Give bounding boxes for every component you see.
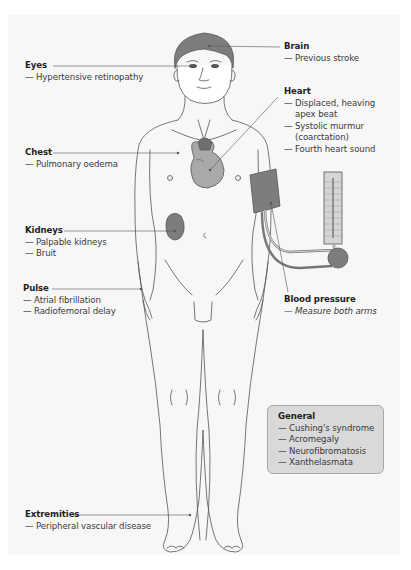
label-heart-item: (coarctation) — [284, 132, 375, 144]
label-heart-item: —Fourth heart sound — [284, 144, 375, 156]
label-heart: Heart —Displaced, heaving apex beat —Sys… — [284, 86, 375, 156]
heart-icon — [191, 138, 224, 188]
label-heart-title: Heart — [284, 86, 375, 98]
label-heart-item: —Systolic murmur — [284, 121, 375, 133]
label-blood-pressure: Blood pressure —Measure both arms — [284, 294, 377, 317]
label-heart-item: —Displaced, heaving — [284, 98, 375, 110]
label-extremities-title: Extremities — [25, 509, 151, 521]
label-heart-item: apex beat — [284, 109, 375, 121]
label-eyes-item: —Hypertensive retinopathy — [25, 72, 143, 84]
kidney-icon — [166, 213, 184, 240]
label-brain-title: Brain — [284, 41, 359, 53]
label-general-item: —Neurofibromatosis — [278, 446, 374, 458]
label-general-item: —Cushing's syndrome — [278, 423, 374, 435]
label-blood-pressure-item: —Measure both arms — [284, 306, 377, 318]
label-pulse: Pulse —Atrial fibrillation —Radiofemoral… — [23, 283, 116, 318]
label-pulse-title: Pulse — [23, 283, 116, 295]
general-box: General —Cushing's syndrome —Acromegaly … — [267, 405, 384, 474]
label-eyes-title: Eyes — [25, 60, 143, 72]
label-brain-item: —Previous stroke — [284, 53, 359, 65]
label-general-item: —Xanthelasmata — [278, 457, 374, 469]
label-blood-pressure-title: Blood pressure — [284, 294, 377, 306]
bp-cuff-icon — [250, 169, 280, 213]
label-pulse-item: —Radiofemoral delay — [23, 306, 116, 318]
label-chest-title: Chest — [25, 147, 118, 159]
label-general: General —Cushing's syndrome —Acromegaly … — [278, 411, 374, 469]
label-kidneys-item: —Bruit — [25, 248, 107, 260]
label-pulse-item: —Atrial fibrillation — [23, 295, 116, 307]
label-kidneys-item: —Palpable kidneys — [25, 237, 107, 249]
label-general-title: General — [278, 411, 374, 423]
hair-icon — [174, 33, 233, 68]
label-brain: Brain —Previous stroke — [284, 41, 359, 64]
label-extremities: Extremities —Peripheral vascular disease — [25, 509, 151, 532]
label-extremities-item: —Peripheral vascular disease — [25, 521, 151, 533]
label-eyes: Eyes —Hypertensive retinopathy — [25, 60, 143, 83]
label-chest: Chest —Pulmonary oedema — [25, 147, 118, 170]
sphygmomanometer-icon — [324, 172, 342, 244]
leader-heart — [210, 97, 278, 170]
label-kidneys-title: Kidneys — [25, 225, 107, 237]
label-kidneys: Kidneys —Palpable kidneys —Bruit — [25, 225, 107, 260]
leader-bp — [271, 203, 288, 292]
bp-bulb-icon — [328, 248, 348, 268]
label-chest-item: —Pulmonary oedema — [25, 159, 118, 171]
label-general-item: —Acromegaly — [278, 434, 374, 446]
